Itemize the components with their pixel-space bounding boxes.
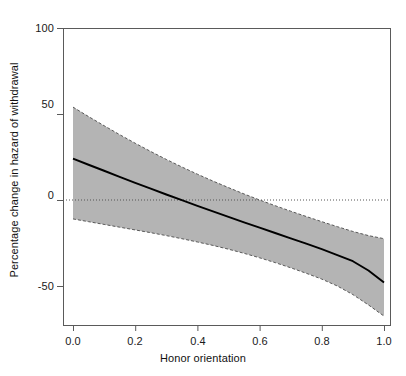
xtick-label-0-0: 0.0 (65, 335, 81, 347)
figure-panel: 100 50 0 -50 0.0 0.2 0.4 0.6 0.8 1.0 Hon… (0, 0, 406, 376)
xtick-label-0-4: 0.4 (190, 335, 206, 347)
confidence-band (73, 107, 384, 316)
ytick-label-minus50: -50 (24, 280, 54, 292)
ytick-label-50: 50 (28, 98, 54, 110)
xtick-label-0-8: 0.8 (314, 335, 330, 347)
xtick-label-0-2: 0.2 (127, 335, 143, 347)
y-axis-title: Percentage change in hazard of withdrawa… (8, 62, 20, 277)
ytick-label-0: 0 (28, 189, 54, 201)
ytick-label-100: 100 (28, 22, 54, 34)
plot-canvas (0, 0, 406, 376)
xtick-label-0-6: 0.6 (252, 335, 268, 347)
xtick-label-1-0: 1.0 (376, 335, 392, 347)
y-axis-title-wrapper: Percentage change in hazard of withdrawa… (0, 0, 28, 340)
x-axis-title: Honor orientation (0, 352, 406, 364)
